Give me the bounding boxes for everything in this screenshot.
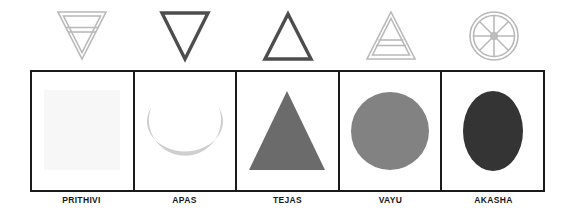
symbol-cell-apas <box>133 4 236 68</box>
symbol-cell-tejas <box>236 4 339 68</box>
label-cell-apas: APAS <box>133 194 236 214</box>
five-elements-diagram: PRITHIVI APAS TEJAS VAYU AKASHA <box>0 0 569 224</box>
symbol-cell-prithivi <box>30 4 133 68</box>
label-cell-tejas: TEJAS <box>236 194 339 214</box>
circle-shape <box>346 82 434 180</box>
panel-tejas <box>237 72 340 190</box>
up-triangle-icon <box>261 7 315 65</box>
spoked-wheel-icon <box>466 7 522 65</box>
element-panel-strip <box>30 70 545 192</box>
panel-apas <box>135 72 238 190</box>
panel-vayu <box>340 72 443 190</box>
square-shape <box>38 82 126 180</box>
label-cell-akasha: AKASHA <box>442 194 545 214</box>
panel-prithivi <box>32 72 135 190</box>
element-label: VAYU <box>379 194 403 206</box>
symbol-cell-vayu <box>339 4 442 68</box>
panel-akasha <box>442 72 543 190</box>
down-triangle-with-bar-icon <box>55 7 109 65</box>
label-cell-prithivi: PRITHIVI <box>30 194 133 214</box>
symbol-row <box>30 4 545 68</box>
ellipse-shape <box>449 82 537 180</box>
element-label: AKASHA <box>474 194 512 206</box>
element-label: PRITHIVI <box>62 194 101 206</box>
down-triangle-icon <box>158 7 212 65</box>
element-label: APAS <box>172 194 196 206</box>
crescent-shape <box>141 82 229 180</box>
element-label: TEJAS <box>273 194 302 206</box>
label-row: PRITHIVI APAS TEJAS VAYU AKASHA <box>30 194 545 214</box>
triangle-shape <box>243 82 331 180</box>
up-triangle-with-bar-icon <box>364 7 418 65</box>
symbol-cell-akasha <box>442 4 545 68</box>
label-cell-vayu: VAYU <box>339 194 442 214</box>
